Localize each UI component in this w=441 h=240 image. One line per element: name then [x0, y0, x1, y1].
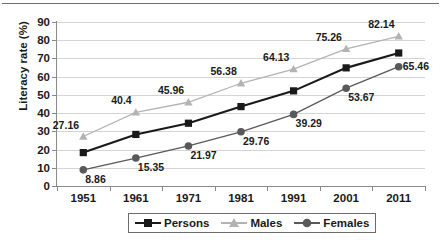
- data-label-females: 53.67: [348, 91, 374, 103]
- legend-label-persons: Persons: [164, 217, 209, 229]
- data-point-persons: [237, 103, 244, 110]
- legend-key-square-icon: [135, 217, 161, 229]
- legend-item-males[interactable]: Males: [221, 217, 282, 229]
- data-point-persons: [132, 131, 139, 138]
- legend-label-females: Females: [323, 217, 369, 229]
- data-label-females: 65.46: [403, 60, 429, 72]
- data-point-males: [79, 132, 87, 139]
- data-point-females: [395, 63, 403, 71]
- legend-key-triangle-icon: [221, 217, 247, 229]
- data-label-females: 21.97: [190, 149, 216, 161]
- data-label-males: 64.13: [263, 51, 289, 63]
- legend-label-males: Males: [250, 217, 282, 229]
- data-point-persons: [343, 64, 350, 71]
- data-point-persons: [185, 120, 192, 127]
- data-label-males: 56.38: [211, 65, 237, 77]
- legend-item-females[interactable]: Females: [294, 217, 369, 229]
- data-label-males: 27.16: [53, 119, 79, 131]
- data-point-males: [395, 32, 403, 39]
- data-point-persons: [395, 49, 402, 56]
- data-label-females: 39.29: [296, 117, 322, 129]
- data-label-males: 45.96: [158, 84, 184, 96]
- data-point-persons: [80, 149, 87, 156]
- legend-item-persons[interactable]: Persons: [135, 217, 209, 229]
- chart-root: Literacy rate (%) 0102030405060708090 19…: [0, 0, 441, 240]
- data-label-females: 15.35: [138, 161, 164, 173]
- data-label-males: 75.26: [316, 31, 342, 43]
- chart-legend: Persons Males Females: [128, 213, 376, 233]
- data-label-males: 40.4: [111, 94, 131, 106]
- data-label-females: 29.76: [243, 135, 269, 147]
- legend-key-circle-icon: [294, 217, 320, 229]
- data-point-persons: [290, 87, 297, 94]
- data-label-females: 8.86: [85, 173, 105, 185]
- data-label-males: 82.14: [368, 18, 394, 30]
